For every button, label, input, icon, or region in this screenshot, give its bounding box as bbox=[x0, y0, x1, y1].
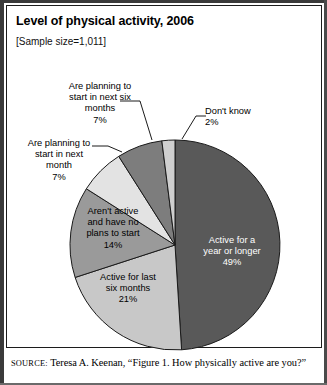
leader-line-dont-know bbox=[182, 116, 196, 139]
slice-label-not-active: Aren't activeand have noplans to start14… bbox=[66, 206, 160, 251]
source-label: SOURCE: bbox=[11, 359, 48, 368]
figure-container: Level of physical activity, 2006 [Sample… bbox=[0, 0, 327, 385]
source-note: SOURCE: Teresa A. Keenan, “Figure 1. How… bbox=[11, 357, 319, 368]
slice-label-year-or-longer: Active for ayear or longer49% bbox=[190, 235, 274, 269]
source-citation: Teresa A. Keenan, “Figure 1. How physica… bbox=[48, 357, 306, 368]
slice-label-dont-know: Don't know2% bbox=[205, 106, 283, 128]
pie-chart: Are planning tostart in next sixmonths7%… bbox=[0, 0, 327, 352]
slice-label-plan-six-months: Are planning tostart in next sixmonths7% bbox=[48, 81, 152, 126]
slice-label-last-six-months: Active for lastsix months21% bbox=[82, 272, 174, 306]
slice-label-plan-next-month: Are planning tostart in nextmonth7% bbox=[12, 138, 106, 183]
leader-line-plan-next-month bbox=[108, 146, 122, 152]
